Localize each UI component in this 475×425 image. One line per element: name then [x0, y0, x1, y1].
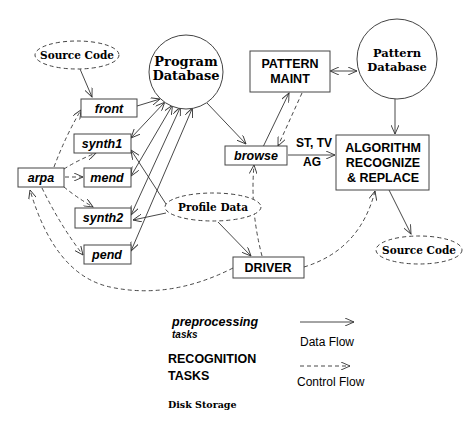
node-program-database: Program Database [149, 35, 223, 109]
edge-front-programdb [137, 99, 160, 106]
legend-data-flow-label: Data Flow [300, 335, 354, 349]
profile-data-label: Profile Data [178, 201, 248, 213]
legend-disk-storage: Disk Storage [168, 399, 237, 410]
node-pattern-maint: PATTERN MAINT [250, 51, 330, 92]
flow-diagram: Source Code Program Database front synth… [0, 0, 475, 425]
legend-recognition-line2: TASKS [168, 369, 209, 383]
front-label: front [95, 102, 124, 116]
node-synth2: synth2 [75, 208, 131, 228]
node-pend: pend [84, 245, 131, 264]
node-browse: browse [225, 146, 287, 165]
source-code-top-label: Source Code [40, 49, 114, 61]
edge-arpa-synth1 [64, 153, 96, 169]
edge-label-ag: AG [303, 155, 321, 169]
edge-label-st-tv: ST, TV [296, 136, 332, 150]
edge-profiledata-synth1 [131, 150, 166, 204]
program-database-label-2: Database [152, 68, 219, 83]
synth1-label: synth1 [82, 137, 122, 151]
browse-label: browse [234, 149, 278, 163]
node-source-code-right: Source Code [376, 236, 462, 264]
legend-control-flow-label: Control Flow [297, 375, 365, 389]
edge-programdb-browse [207, 103, 246, 144]
program-database-label-1: Program [154, 54, 218, 69]
pattern-database-label-2: Database [367, 60, 426, 74]
legend-preprocessing-line1: preprocessing [171, 315, 259, 329]
legend-recognition-line1: RECOGNITION [168, 352, 256, 366]
node-mend: mend [84, 168, 131, 187]
edge-profiledata-driver [218, 222, 251, 256]
edge-algorithm-sourcecode [389, 190, 411, 234]
edge-sourcecode-front [80, 69, 92, 97]
synth2-label: synth2 [83, 211, 123, 225]
edge-driver-algorithm [304, 191, 375, 267]
pend-label: pend [91, 248, 122, 262]
node-profile-data: Profile Data [165, 193, 261, 221]
node-algorithm: ALGORITHM RECOGNIZE & REPLACE [336, 135, 429, 190]
driver-label: DRIVER [244, 261, 291, 275]
node-front: front [81, 99, 137, 117]
algorithm-label-3: & REPLACE [347, 171, 419, 185]
edge-browse-patternmaint [263, 93, 289, 147]
node-driver: DRIVER [233, 257, 304, 278]
pattern-database-label-1: Pattern [373, 46, 422, 60]
pattern-maint-label-2: MAINT [270, 72, 310, 86]
pattern-maint-label-1: PATTERN [261, 57, 318, 71]
node-synth1: synth1 [74, 134, 131, 153]
algorithm-label-2: RECOGNIZE [346, 156, 420, 170]
legend: preprocessing tasks RECOGNITION TASKS Di… [168, 315, 365, 410]
mend-label: mend [90, 171, 124, 185]
source-code-right-label: Source Code [382, 244, 456, 256]
edge-arpa-synth2 [64, 187, 93, 207]
node-pattern-database: Pattern Database [357, 19, 437, 99]
edge-profiledata-synth2 [133, 213, 166, 220]
legend-preprocessing-line2: tasks [172, 329, 198, 340]
node-source-code-top: Source Code [35, 41, 119, 69]
algorithm-label-1: ALGORITHM [345, 141, 421, 155]
edge-programdb-pend [131, 109, 192, 251]
node-arpa: arpa [18, 168, 64, 187]
arpa-label: arpa [28, 171, 54, 185]
